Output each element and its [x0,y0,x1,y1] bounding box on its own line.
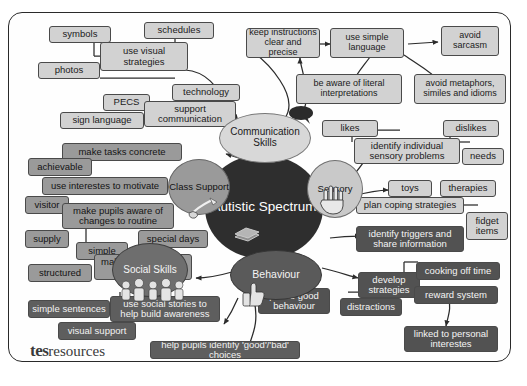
node-use-interests-to-motivate[interactable]: use interestes to motivate [42,177,168,195]
node-schedules[interactable]: schedules [144,22,214,39]
node-pecs[interactable]: PECS [103,94,150,111]
node-distractions[interactable]: distractions [340,298,402,316]
node-linked-to-personal-interests[interactable]: linked to personal interestes [404,326,498,352]
node-identify-sensory-problems[interactable]: identify individual sensory problems [354,138,460,164]
node-make-pupils-aware-of-changes[interactable]: make pupils aware of changes to routine [62,203,174,229]
logo-resources: resources [48,343,105,359]
node-keep-instructions-clear[interactable]: keep instructions clear and precise [246,28,320,58]
node-use-social-stories[interactable]: use social stories to help build awarene… [110,296,220,322]
node-technology[interactable]: technology [172,84,240,101]
node-toys[interactable]: toys [388,180,432,197]
node-avoid-sarcasm[interactable]: avoid sarcasm [441,26,499,56]
node-achievable[interactable]: achievable [28,158,92,176]
node-visual-support[interactable]: visual support [58,322,136,340]
tes-resources-logo: tesresources [30,341,105,361]
branch-social-skills[interactable]: Social Skills [112,243,188,297]
node-use-simple-language[interactable]: use simple language [330,28,404,58]
node-reward-system[interactable]: reward system [414,286,498,304]
node-therapies[interactable]: therapies [440,180,496,197]
node-symbols[interactable]: symbols [49,26,111,43]
node-dislikes[interactable]: dislikes [443,120,499,137]
node-be-aware-literal-interpretations[interactable]: be aware of literal interpretations [296,74,402,104]
branch-class-support[interactable]: Class Support [168,159,230,215]
node-needs[interactable]: needs [462,148,504,165]
logo-tes: tes [30,341,48,360]
node-plan-coping-strategies[interactable]: plan coping strategies [356,197,464,214]
node-avoid-metaphors-similes-idioms[interactable]: avoid metaphors, similes and idioms [414,74,506,104]
node-fidget-items[interactable]: fidget items [466,212,508,240]
node-supply[interactable]: supply [25,230,69,248]
node-support-communication[interactable]: support communication [144,101,236,127]
node-use-visual-strategies[interactable]: use visual strategies [100,42,188,71]
node-develop-strategies[interactable]: develop strategies [358,272,420,298]
node-photos[interactable]: photos [38,62,100,79]
branch-sensory[interactable]: Sensory [307,160,363,218]
node-sign-language[interactable]: sign language [60,112,144,129]
node-structured[interactable]: structured [28,264,92,282]
node-simple-sentences[interactable]: simple sentences [28,300,110,318]
node-identify-triggers-share-info[interactable]: identify triggers and share information [356,226,464,252]
node-help-pupils-identify-choices[interactable]: help pupils identify 'good'/'bad' choice… [150,341,300,359]
branch-communication-skills[interactable]: Communication Skills [219,113,311,163]
node-cooling-off-time[interactable]: cooking off time [416,262,500,280]
node-likes[interactable]: likes [322,120,378,137]
branch-behaviour[interactable]: Behaviour [230,250,322,300]
mindmap-canvas: symbols schedules use visual strategies … [0,0,527,386]
